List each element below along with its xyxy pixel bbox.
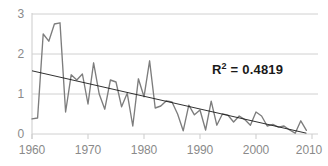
x-tick-marks — [32, 134, 312, 139]
x-tick-label-1990: 1990 — [179, 144, 221, 156]
y-tick-label-1: 1 — [2, 88, 24, 100]
chart-plot-area — [0, 0, 328, 166]
y-tick-label-2: 2 — [2, 48, 24, 60]
y-tick-label-0: 0 — [2, 128, 24, 140]
r-squared-annotation: R2 = 0.4819 — [212, 62, 283, 77]
x-tick-label-1970: 1970 — [67, 144, 109, 156]
x-tick-label-1980: 1980 — [123, 144, 165, 156]
x-tick-label-2010: 2010 — [288, 144, 328, 156]
x-tick-label-1960: 1960 — [11, 144, 53, 156]
trendline — [32, 71, 306, 133]
y-tick-label-3: 3 — [2, 8, 24, 20]
x-tick-label-2000: 2000 — [235, 144, 277, 156]
chart-container: 3 2 1 0 1960 1970 1980 1990 2000 2010 R2… — [0, 0, 328, 166]
data-series-line — [32, 23, 306, 133]
